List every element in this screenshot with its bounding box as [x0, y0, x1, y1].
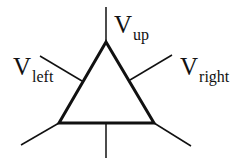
spoke-right	[130, 55, 172, 80]
label-v-up-sub: up	[133, 26, 149, 43]
label-v-left: Vleft	[13, 54, 53, 79]
label-v-left-sub: left	[32, 68, 53, 85]
label-v-left-main: V	[13, 53, 31, 80]
label-v-up: Vup	[114, 12, 149, 37]
label-v-right-main: V	[180, 53, 198, 80]
spoke-bottom-right	[154, 123, 191, 146]
spoke-bottom-left	[21, 123, 59, 145]
label-v-right-sub: right	[199, 68, 229, 85]
label-v-right: Vright	[180, 54, 229, 79]
label-v-up-main: V	[114, 11, 132, 38]
triangle-node	[59, 42, 154, 123]
